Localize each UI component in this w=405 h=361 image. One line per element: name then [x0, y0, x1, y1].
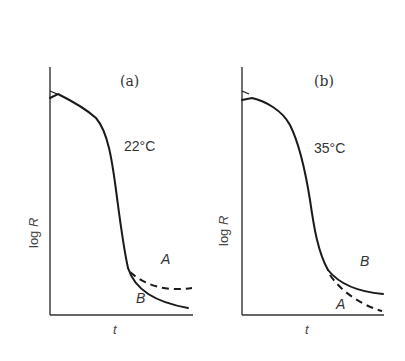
temperature-label-b: 35°C [314, 140, 345, 156]
y-axis-label-prefix-b: log [216, 225, 231, 246]
initial-spur-b [242, 91, 249, 94]
y-axis-label-a: log R [26, 218, 41, 248]
y-axis-label-prefix-a: log [26, 227, 41, 248]
x-axis-label-b: t [305, 322, 310, 337]
curve-B-b [328, 270, 383, 294]
temperature-label-a: 22°C [124, 138, 155, 154]
svg-text:log R: log R [216, 216, 231, 246]
y-axis-label-var-b: R [216, 216, 231, 225]
panel-title-a: (a) [120, 73, 139, 89]
panel-title-b: (b) [314, 73, 334, 89]
initial-spur-a [50, 91, 57, 94]
y-axis-label-b: log R [216, 216, 231, 246]
curve-label-A-a: A [160, 251, 170, 267]
x-axis-label-a: t [113, 322, 118, 337]
curve-label-B-a: B [136, 290, 145, 306]
main-curve-a [50, 94, 128, 268]
svg-text:log R: log R [26, 218, 41, 248]
curve-label-B-b: B [360, 253, 369, 269]
main-curve-b [242, 98, 328, 270]
figure: (a) 22°C A B t log R (b) 35°C B A [0, 0, 405, 361]
panel-a: (a) 22°C A B t log R [26, 67, 193, 337]
curve-label-A-b: A [335, 296, 345, 312]
panel-b: (b) 35°C B A t log R [216, 67, 384, 337]
y-axis-label-var-a: R [26, 218, 41, 227]
